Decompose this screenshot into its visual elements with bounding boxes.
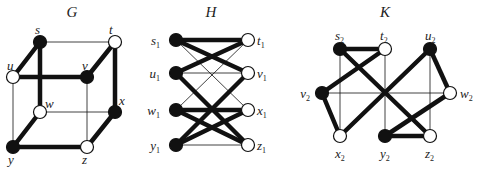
node-K-v-filled [316,87,329,100]
edge-K-u-w-thick [430,49,450,93]
node-H-v-hollow [242,67,255,80]
graph-title-G: G [67,4,78,20]
graph-title-K: K [379,4,391,20]
node-label-G-v: v [82,58,88,73]
node-label-K-t: t2 [380,28,388,45]
node-K-w-hollow [444,87,457,100]
node-K-z-hollow [424,130,437,143]
node-label-K-s: s2 [335,28,344,45]
node-H-t-hollow [242,34,255,47]
node-label-K-y: y2 [378,146,390,163]
node-H-u-filled [170,67,183,80]
node-label-H-z: z1 [256,138,266,155]
node-label-H-y: y1 [148,138,160,155]
node-label-G-x: x [118,93,125,108]
node-H-y-filled [170,139,183,152]
node-G-t-hollow [109,36,122,49]
node-label-G-t: t [109,22,113,37]
node-label-H-w: w1 [147,103,160,120]
node-label-K-z: z2 [424,146,434,163]
node-label-G-u: u [7,58,14,73]
node-label-G-y: y [6,152,14,167]
node-label-G-w: w [45,96,54,111]
node-label-H-x: x1 [256,103,267,120]
node-label-G-z: z [81,152,87,167]
node-label-H-s: s1 [151,33,160,50]
node-H-z-hollow [242,139,255,152]
node-label-K-u: u2 [425,28,436,45]
node-H-s-filled [170,34,183,47]
node-K-y-filled [379,130,392,143]
node-label-H-v: v1 [257,66,267,83]
node-label-K-x: x2 [334,146,345,163]
node-K-x-hollow [334,130,347,143]
node-label-H-t: t1 [257,33,265,50]
node-label-G-s: s [35,22,40,37]
graph-figure: GstuvwxyzHs1u1w1y1t1v1x1z1Ks2t2u2v2w2x2y… [0,0,477,169]
graph-title-H: H [205,4,218,20]
node-label-H-u: u1 [150,66,161,83]
node-label-K-w: w2 [460,86,473,103]
node-label-K-v: v2 [300,86,310,103]
node-H-w-filled [170,104,183,117]
node-G-s-filled [34,36,47,49]
node-H-x-hollow [242,104,255,117]
